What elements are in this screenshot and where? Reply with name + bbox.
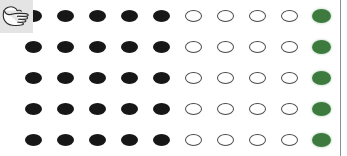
- dot-hollow[interactable]: [185, 10, 202, 22]
- dot-filled-dark[interactable]: [153, 72, 170, 84]
- dot-grid: [0, 0, 347, 156]
- dot-filled-dark[interactable]: [89, 72, 106, 84]
- dot-filled-dark[interactable]: [153, 41, 170, 53]
- dot-filled-green[interactable]: [312, 9, 331, 23]
- dot-hollow[interactable]: [249, 134, 266, 146]
- dot-hollow[interactable]: [249, 72, 266, 84]
- dot-filled-dark[interactable]: [153, 10, 170, 22]
- dot-hollow[interactable]: [281, 10, 298, 22]
- dot-filled-dark[interactable]: [57, 41, 74, 53]
- dot-filled-dark[interactable]: [57, 10, 74, 22]
- dot-filled-dark[interactable]: [121, 134, 138, 146]
- dot-hollow[interactable]: [217, 72, 234, 84]
- dot-row: [0, 131, 347, 149]
- dot-filled-dark[interactable]: [25, 41, 42, 53]
- dot-hollow[interactable]: [249, 41, 266, 53]
- dot-hollow[interactable]: [281, 134, 298, 146]
- dot-filled-dark[interactable]: [25, 134, 42, 146]
- dot-hollow[interactable]: [185, 134, 202, 146]
- dot-filled-dark[interactable]: [121, 72, 138, 84]
- right-vertical-rule: [340, 0, 341, 156]
- dot-filled-dark[interactable]: [25, 72, 42, 84]
- dot-filled-dark[interactable]: [89, 41, 106, 53]
- dot-filled-green[interactable]: [312, 71, 331, 85]
- dot-filled-green[interactable]: [312, 40, 331, 54]
- dot-filled-green[interactable]: [312, 133, 331, 147]
- dot-filled-dark[interactable]: [57, 103, 74, 115]
- dot-filled-dark[interactable]: [153, 134, 170, 146]
- dot-filled-dark[interactable]: [121, 41, 138, 53]
- dot-hollow[interactable]: [185, 41, 202, 53]
- dot-filled-dark[interactable]: [153, 103, 170, 115]
- dot-hollow[interactable]: [249, 103, 266, 115]
- dot-hollow[interactable]: [281, 41, 298, 53]
- dot-hollow[interactable]: [217, 103, 234, 115]
- dot-filled-dark[interactable]: [57, 134, 74, 146]
- dot-row: [0, 7, 347, 25]
- dot-filled-dark[interactable]: [89, 10, 106, 22]
- dot-hollow[interactable]: [281, 103, 298, 115]
- pointing-hand-cursor-icon[interactable]: [0, 0, 33, 33]
- dot-filled-dark[interactable]: [121, 10, 138, 22]
- dot-hollow[interactable]: [217, 134, 234, 146]
- dot-filled-dark[interactable]: [121, 103, 138, 115]
- dot-hollow[interactable]: [217, 41, 234, 53]
- dot-row: [0, 69, 347, 87]
- dot-filled-dark[interactable]: [25, 103, 42, 115]
- dot-grid-canvas: [0, 0, 347, 156]
- dot-filled-dark[interactable]: [89, 103, 106, 115]
- dot-filled-dark[interactable]: [89, 134, 106, 146]
- dot-hollow[interactable]: [185, 72, 202, 84]
- dot-hollow[interactable]: [217, 10, 234, 22]
- dot-row: [0, 38, 347, 56]
- dot-hollow[interactable]: [281, 72, 298, 84]
- dot-hollow[interactable]: [249, 10, 266, 22]
- dot-filled-dark[interactable]: [57, 72, 74, 84]
- dot-hollow[interactable]: [185, 103, 202, 115]
- dot-row: [0, 100, 347, 118]
- dot-filled-green[interactable]: [312, 102, 331, 116]
